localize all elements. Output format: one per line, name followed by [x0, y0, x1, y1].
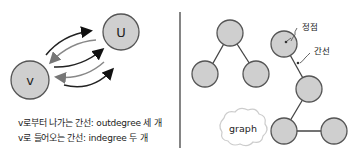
tree-node-root: [217, 20, 243, 46]
vertex-mid: [296, 76, 322, 102]
indegree-caption: v로 들어오는 간선: indegree 두 개: [18, 131, 148, 144]
directed-graph: v U: [11, 14, 139, 99]
tree-graph: [192, 20, 269, 87]
graph-cloud: graph: [220, 108, 267, 145]
outdegree-caption: v로부터 나가는 간선: outdegree 세 개: [18, 116, 162, 129]
vertex-annotation: 정점: [302, 22, 318, 32]
incoming-arrow-2: [57, 62, 104, 77]
vertex-annotated: [271, 31, 297, 57]
path-graph: [271, 31, 347, 144]
edge-annotation: 간선: [314, 46, 330, 56]
outgoing-arrow-1: [46, 31, 90, 55]
cloud-label: graph: [229, 123, 257, 134]
tree-node-right: [243, 61, 269, 87]
node-u-label: U: [116, 25, 126, 40]
tree-node-left: [192, 61, 218, 87]
node-v-label: v: [26, 73, 34, 88]
vertex-bottom-left: [271, 118, 297, 144]
vertex-bottom-right: [321, 118, 347, 144]
